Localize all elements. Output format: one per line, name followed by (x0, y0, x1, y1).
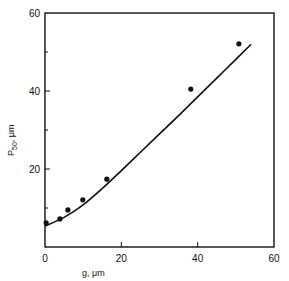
y-tick-label: 40 (29, 86, 41, 97)
x-tick-label: 40 (192, 253, 204, 264)
data-series (44, 41, 252, 226)
x-tick-label: 20 (116, 253, 128, 264)
y-tick-label: 60 (29, 8, 41, 19)
data-point (104, 177, 109, 182)
svg-text:P50, μm: P50, μm (6, 125, 18, 157)
data-point (236, 41, 241, 46)
x-tick-label: 60 (268, 253, 280, 264)
fit-curve (45, 44, 251, 226)
y-tick-label: 20 (29, 164, 41, 175)
data-point (65, 207, 70, 212)
x-axis-label: g, μm (82, 268, 105, 278)
x-tick-label: 0 (42, 253, 48, 264)
axis-ticks: 0204060204060 (29, 8, 280, 265)
plot-border (45, 13, 274, 247)
data-point (188, 86, 193, 91)
plot-frame (45, 13, 274, 247)
data-point (80, 197, 85, 202)
y-axis-label: P50, μm (6, 125, 18, 157)
chart: 0204060204060 g, μm P50, μm (0, 0, 289, 281)
